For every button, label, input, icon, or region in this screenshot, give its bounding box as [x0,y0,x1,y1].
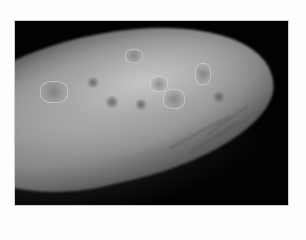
clinical-photo [15,21,288,205]
lesion [105,96,119,108]
lesion-upper [125,49,143,63]
lesion-center-ring [150,76,168,92]
lesion [87,77,99,88]
lesion-left-plaque [40,81,68,103]
lesion [135,99,147,110]
lesion [213,91,225,103]
lesion-center-plaque [163,89,185,109]
lesion-right-scale [195,63,211,85]
